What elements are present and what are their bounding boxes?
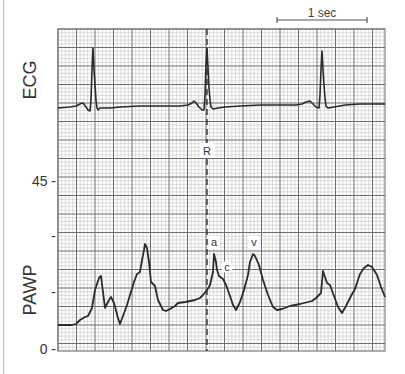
r-label: R [203,145,211,157]
y-tick-45: 45 - [32,173,56,189]
ecg-axis-label: ECG [20,60,40,99]
a-wave-label: a [211,236,218,248]
pawp-axis-label: PAWP [20,264,40,315]
scale-bar-label: 1 sec [308,6,337,20]
y-tick-30: - [51,228,56,244]
chart-canvas: ECG PAWP 45 - - - 0 - 1 sec R a c v [0,0,405,374]
ecg-pawp-figure: ECG PAWP 45 - - - 0 - 1 sec R a c v [0,0,405,374]
left-border-rule [3,0,4,374]
ecg-label: ECG [20,60,40,99]
scale-bar: 1 sec [277,6,367,23]
c-wave-label: c [224,261,230,273]
pawp-label: PAWP [20,264,40,315]
y-tick-15: - [51,284,56,300]
y-tick-0: 0 - [40,341,57,357]
v-wave-label: v [251,236,257,248]
